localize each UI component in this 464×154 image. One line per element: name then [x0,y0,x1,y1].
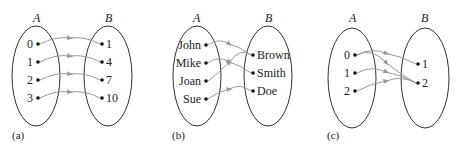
mapping-arrow [40,74,70,80]
mapping-arrow-tail [230,86,252,91]
mapping-arrow-tail [70,38,100,44]
domain-element: John [178,38,201,52]
set-b-label: B [265,11,273,25]
codomain-point [251,89,255,93]
set-a-label: A [32,11,41,25]
mapping-arrow [357,81,387,91]
codomain-element: 10 [106,91,118,105]
codomain-element: Brown [257,48,290,62]
mapping-arrow [208,62,230,81]
codomain-element: 2 [422,76,428,90]
codomain-point [100,96,104,100]
mapping-arrow [208,59,230,63]
mapping-arrows [357,51,416,91]
codomain-point [416,62,420,66]
domain-element: 1 [27,55,33,69]
domain-element: 3 [27,91,33,105]
domain-point [36,60,40,64]
codomain-elements: 14710 [100,37,118,105]
codomain-point [251,53,255,57]
domain-element: 1 [344,66,350,80]
domain-point [353,53,357,57]
codomain-elements: BrownSmithDoe [251,48,289,98]
mapping-arrow [357,69,387,73]
domain-elements: 012 [344,48,357,98]
codomain-element: 4 [106,55,112,69]
codomain-point [251,71,255,75]
domain-element: 2 [344,84,350,98]
domain-point [204,43,208,47]
caption: (a) [12,129,25,142]
diagram-b: A B JohnMikeJoanSue BrownSmithDoe (b) [172,11,292,142]
mapping-arrow [208,41,230,45]
codomain-point [416,81,420,85]
domain-point [353,89,357,93]
set-a-ellipse [328,28,376,128]
set-a-label: A [192,11,201,25]
domain-point [36,96,40,100]
mapping-arrows [40,38,100,98]
codomain-point [100,42,104,46]
set-b-label: B [421,11,429,25]
mapping-arrow [40,92,70,98]
domain-element: 0 [344,48,350,62]
set-a-label: A [348,11,357,25]
domain-point [204,79,208,83]
codomain-element: 1 [422,57,428,71]
mapping-arrow [357,52,387,63]
domain-element: 2 [27,73,33,87]
codomain-element: 7 [106,73,112,87]
mapping-arrow-tail [70,92,100,98]
codomain-element: Doe [257,84,277,98]
mapping-arrow [40,38,70,44]
domain-element: Joan [179,74,201,88]
diagram-a: A B 0123 14710 (a) [12,11,132,142]
domain-elements: JohnMikeJoanSue [176,38,208,106]
domain-element: 0 [27,37,33,51]
mapping-arrow [40,56,70,62]
mapping-arrow-tail [230,62,252,73]
codomain-elements: 12 [416,57,428,90]
domain-elements: 0123 [27,37,40,105]
codomain-element: Smith [257,66,286,80]
codomain-point [100,60,104,64]
mapping-arrow-tail [387,54,417,65]
diagram-c: A B 012 12 (c) [327,11,449,142]
function-diagrams: A B 0123 14710 (a) A B JohnMikeJoanSue B… [0,0,464,154]
domain-point [353,71,357,75]
domain-element: Sue [183,92,201,106]
codomain-point [100,78,104,82]
mapping-arrow-tail [70,74,100,80]
domain-point [36,42,40,46]
caption: (b) [172,129,185,142]
domain-point [204,61,208,65]
domain-point [36,78,40,82]
set-a-ellipse [12,26,60,126]
caption: (c) [327,129,340,142]
domain-element: Mike [176,56,201,70]
codomain-element: 1 [106,37,112,51]
mapping-arrow-tail [230,52,252,62]
domain-point [204,97,208,101]
set-b-label: B [105,11,113,25]
